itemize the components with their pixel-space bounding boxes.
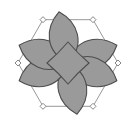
rosette-figure: six-petal rosette geometric motif bbox=[0, 0, 136, 126]
